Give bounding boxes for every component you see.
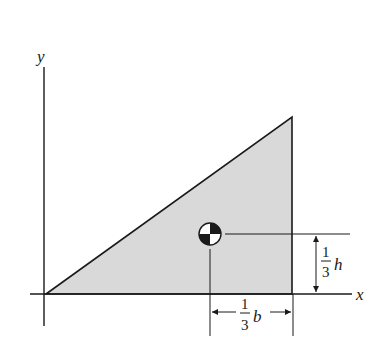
- horizontal-dim-numerator: 1: [241, 296, 249, 312]
- y-axis-label: y: [35, 47, 45, 66]
- horizontal-dim-variable: b: [253, 307, 262, 326]
- x-axis-label: x: [355, 285, 364, 304]
- vertical-dim-denominator: 3: [322, 264, 330, 280]
- vertical-dimension-label: 1 3 h: [321, 244, 343, 280]
- vertical-dim-numerator: 1: [322, 244, 330, 260]
- triangle-shape: [46, 117, 292, 294]
- vertical-dim-variable: h: [334, 255, 343, 274]
- centroid-icon: [199, 223, 221, 245]
- horizontal-dim-denominator: 3: [241, 317, 249, 333]
- centroid-diagram: y x 1 3 h 1 3 b: [0, 0, 379, 342]
